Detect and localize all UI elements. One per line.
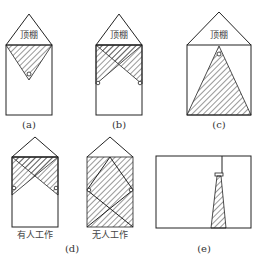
caption-d: (d): [65, 243, 79, 254]
caption-b: (b): [112, 119, 126, 130]
panel-b: 顶棚 (b): [96, 14, 142, 130]
caption-d-unoccupied: 无人工作: [92, 229, 128, 240]
ceiling-label-c: 顶棚: [210, 29, 228, 40]
lighting-diagram: 顶棚 (a) 顶棚 (b) 顶棚 (c) 有人工作: [0, 0, 257, 261]
caption-d-occupied: 有人工作: [17, 229, 53, 240]
ceiling-label-a: 顶棚: [20, 29, 38, 40]
caption-c: (c): [212, 119, 226, 130]
panel-a: 顶棚 (a): [6, 14, 52, 130]
caption-a: (a): [22, 119, 36, 130]
panel-e: (e): [156, 156, 251, 254]
panel-d-unoccupied: 无人工作: [87, 137, 133, 240]
caption-e: (e): [197, 243, 211, 254]
panel-c: 顶棚 (c): [187, 12, 251, 130]
ceiling-label-b: 顶棚: [110, 29, 128, 40]
panel-d-occupied: 有人工作: [12, 137, 58, 240]
